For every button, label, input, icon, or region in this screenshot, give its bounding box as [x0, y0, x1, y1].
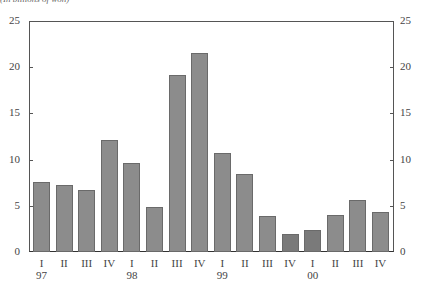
- y-tick-label-right: 20: [400, 61, 411, 72]
- y-tick-label-left: 20: [0, 61, 20, 72]
- bar-ii-98: [146, 207, 163, 252]
- y-tick-mark: [390, 113, 394, 114]
- y-tick-label-left: 15: [0, 107, 20, 118]
- y-tick-label-right: 0: [400, 246, 406, 257]
- x-tick-label: II: [233, 257, 257, 269]
- x-year-label: 97: [30, 269, 54, 281]
- x-tick-label: I: [301, 257, 325, 269]
- bar-i-98: [123, 163, 140, 252]
- y-tick-label-left: 25: [0, 15, 20, 26]
- y-tick-mark: [390, 206, 394, 207]
- y-tick-label-left: 5: [0, 200, 20, 211]
- y-tick-mark: [29, 160, 33, 161]
- bar-iii-00: [349, 200, 366, 252]
- x-tick-label: IV: [97, 257, 121, 269]
- x-tick-label: II: [52, 257, 76, 269]
- bar-i-97: [33, 182, 50, 252]
- chart-subtitle: (In billions of won): [0, 0, 69, 4]
- x-tick-label: I: [210, 257, 234, 269]
- x-tick-label: III: [165, 257, 189, 269]
- bar-iv-98: [191, 53, 208, 252]
- y-tick-label-right: 10: [400, 154, 411, 165]
- bar-ii-97: [56, 185, 73, 252]
- x-tick-label: III: [75, 257, 99, 269]
- y-tick-label-left: 0: [0, 246, 20, 257]
- bar-iii-99: [259, 216, 276, 252]
- y-tick-mark: [29, 113, 33, 114]
- x-tick-label: IV: [188, 257, 212, 269]
- x-year-label: 99: [210, 269, 234, 281]
- x-tick-label: II: [323, 257, 347, 269]
- y-tick-label-right: 5: [400, 200, 406, 211]
- x-tick-label: IV: [278, 257, 302, 269]
- x-tick-label: I: [30, 257, 54, 269]
- x-tick-label: III: [346, 257, 370, 269]
- x-year-label: 98: [120, 269, 144, 281]
- x-tick-label: IV: [369, 257, 393, 269]
- bar-ii-99: [236, 174, 253, 252]
- x-tick-label: I: [120, 257, 144, 269]
- y-tick-label-right: 15: [400, 107, 411, 118]
- bar-ii-00: [327, 215, 344, 252]
- bar-iii-98: [169, 75, 186, 252]
- bar-i-99: [214, 153, 231, 252]
- y-tick-mark: [29, 67, 33, 68]
- bar-iv-97: [101, 140, 118, 252]
- bar-iii-97: [78, 190, 95, 252]
- y-tick-label-left: 10: [0, 154, 20, 165]
- bar-iv-00: [372, 212, 389, 252]
- bar-i-00: [304, 230, 321, 252]
- y-tick-label-right: 25: [400, 15, 411, 26]
- x-tick-label: II: [143, 257, 167, 269]
- bar-iv-99: [282, 234, 299, 252]
- x-tick-label: III: [256, 257, 280, 269]
- x-year-label: 00: [301, 269, 325, 281]
- y-tick-mark: [390, 67, 394, 68]
- y-tick-mark: [390, 160, 394, 161]
